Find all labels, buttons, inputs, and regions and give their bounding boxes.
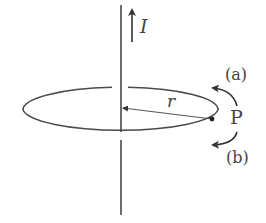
- ring-back-left: [23, 87, 112, 110]
- radius-label: r: [167, 91, 176, 111]
- direction-a-label: (a): [225, 65, 247, 84]
- current-label: I: [139, 15, 148, 37]
- direction-a-arrow-icon: [213, 88, 237, 106]
- point-p-label: P: [230, 106, 243, 128]
- direction-b-arrow-icon: [213, 132, 237, 145]
- direction-b-label: (b): [226, 148, 249, 167]
- point-p-dot: [210, 117, 215, 122]
- magnetic-field-diagram: I r P (a) (b): [0, 0, 266, 223]
